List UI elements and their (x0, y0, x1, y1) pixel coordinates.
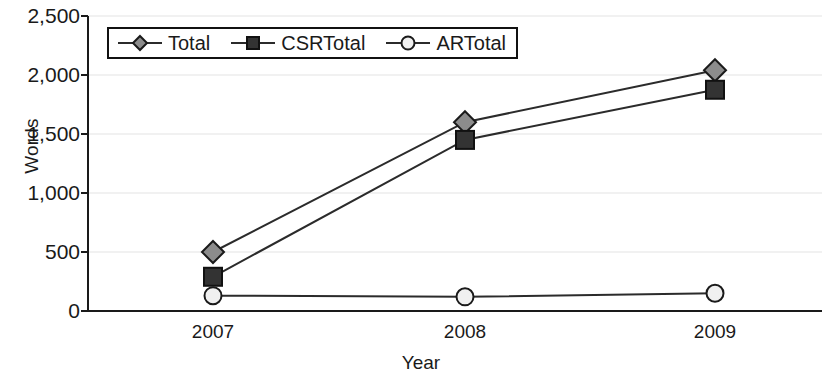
data-point-marker (202, 241, 224, 263)
data-point-marker (704, 59, 726, 81)
legend-label: ARTotal (436, 33, 506, 53)
circle-marker-icon (385, 33, 431, 53)
diamond-marker-icon (117, 33, 163, 53)
legend-label: Total (168, 33, 210, 53)
data-point-marker (204, 268, 222, 286)
data-point-marker (707, 285, 724, 302)
data-point-marker (706, 81, 724, 99)
data-point-marker (456, 131, 474, 149)
data-point-marker (457, 288, 474, 305)
legend: Total CSRTotal ARTotal (107, 27, 518, 59)
data-point-marker (205, 287, 222, 304)
legend-item-csrtotal[interactable]: CSRTotal (230, 33, 365, 53)
axis-lines (81, 16, 822, 311)
legend-item-artotal[interactable]: ARTotal (385, 33, 506, 53)
line-chart: Words 2,500 2,000 1,500 1,000 500 0 2007… (0, 0, 822, 377)
data-series-layer (202, 59, 726, 305)
square-marker-icon (230, 33, 276, 53)
legend-item-total[interactable]: Total (117, 33, 210, 53)
legend-label: CSRTotal (281, 33, 365, 53)
